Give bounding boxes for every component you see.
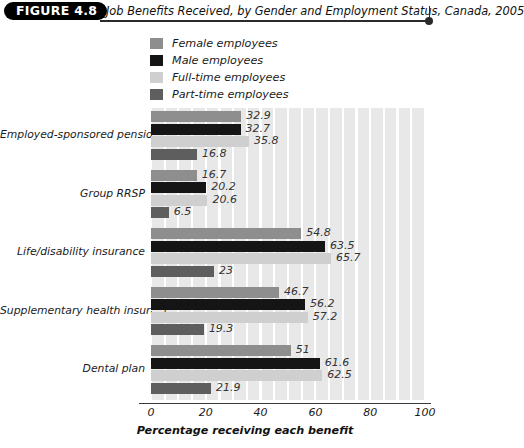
- category-label: Group RRSP: [0, 187, 145, 200]
- bar[interactable]: [151, 345, 291, 356]
- header-rule: [100, 20, 430, 22]
- bar-row: 62.5: [151, 370, 425, 381]
- bar-row: 56.2: [151, 299, 425, 310]
- legend-item[interactable]: Male employees: [150, 53, 289, 68]
- bar-value-label: 62.5: [322, 368, 352, 382]
- bar[interactable]: [151, 312, 308, 323]
- bar-value-label: 57.2: [308, 310, 338, 324]
- x-tick-label: 40: [254, 406, 268, 419]
- category-label: Dental plan: [0, 362, 145, 375]
- bar-value-label: 19.3: [204, 322, 234, 336]
- legend-item-label: Full-time employees: [172, 71, 285, 84]
- bar-value-label: 51: [291, 343, 310, 357]
- bar[interactable]: [151, 241, 325, 252]
- x-tick-label: 60: [308, 406, 322, 419]
- x-axis-tick-labels: 020406080100: [151, 406, 425, 422]
- bar-row: 32.9: [151, 111, 425, 122]
- bar[interactable]: [151, 299, 305, 310]
- bar-row: 21.9: [151, 383, 425, 394]
- bar-value-label: 65.7: [331, 251, 361, 265]
- bar[interactable]: [151, 228, 301, 239]
- bar[interactable]: [151, 195, 207, 206]
- category-label: Employed-sponsored pension: [0, 128, 145, 141]
- bar[interactable]: [151, 383, 211, 394]
- x-tick-label: 100: [415, 406, 436, 419]
- bar-row: 54.8: [151, 228, 425, 239]
- figure-title: Job Benefits Received, by Gender and Emp…: [106, 2, 524, 20]
- bar[interactable]: [151, 287, 279, 298]
- bar-value-label: 35.8: [249, 134, 279, 148]
- category-label: Life/disability insurance: [0, 245, 145, 258]
- bar-row: 23: [151, 266, 425, 277]
- bar[interactable]: [151, 253, 331, 264]
- legend-item-label: Male employees: [172, 54, 263, 67]
- bar-row: 35.8: [151, 136, 425, 147]
- legend-item-label: Part-time employees: [172, 88, 289, 101]
- bar[interactable]: [151, 207, 169, 218]
- bar-row: 20.6: [151, 195, 425, 206]
- bar-value-label: 20.6: [207, 193, 237, 207]
- bar-row: 61.6: [151, 358, 425, 369]
- bar-row: 20.2: [151, 182, 425, 193]
- bar[interactable]: [151, 170, 197, 181]
- bar[interactable]: [151, 136, 249, 147]
- legend-item-label: Female employees: [172, 37, 278, 50]
- bar-row: 16.8: [151, 149, 425, 160]
- bars-layer: 32.932.735.816.816.720.220.66.554.863.56…: [151, 108, 425, 400]
- chart-legend: Female employeesMale employeesFull-time …: [150, 36, 289, 104]
- bar-value-label: 23: [214, 264, 233, 278]
- x-axis-line: [139, 403, 431, 404]
- legend-item[interactable]: Female employees: [150, 36, 289, 51]
- bar[interactable]: [151, 124, 241, 135]
- legend-item[interactable]: Full-time employees: [150, 70, 289, 85]
- bar-row: 65.7: [151, 253, 425, 264]
- figure-number-badge: FIGURE 4.8: [4, 2, 107, 20]
- x-tick-label: 20: [199, 406, 213, 419]
- y-axis-category-labels: Employed-sponsored pensionGroup RRSPLife…: [0, 108, 145, 400]
- header-end-dot-icon: [425, 17, 433, 25]
- plot-area: 32.932.735.816.816.720.220.66.554.863.56…: [151, 108, 425, 400]
- legend-swatch-icon: [150, 89, 163, 100]
- bar-row: 19.3: [151, 324, 425, 335]
- bar[interactable]: [151, 358, 320, 369]
- figure-header: FIGURE 4.8 Job Benefits Received, by Gen…: [0, 0, 450, 24]
- category-label: Supplementary health insurance: [0, 304, 145, 317]
- legend-swatch-icon: [150, 55, 163, 66]
- bar-row: 32.7: [151, 124, 425, 135]
- bar-row: 51: [151, 345, 425, 356]
- legend-swatch-icon: [150, 38, 163, 49]
- bar[interactable]: [151, 182, 206, 193]
- bar[interactable]: [151, 149, 197, 160]
- x-tick-label: 0: [148, 406, 155, 419]
- legend-item[interactable]: Part-time employees: [150, 87, 289, 102]
- bar-value-label: 16.8: [197, 147, 227, 161]
- x-tick-label: 80: [363, 406, 377, 419]
- bar-row: 46.7: [151, 287, 425, 298]
- bar-row: 6.5: [151, 207, 425, 218]
- bar[interactable]: [151, 324, 204, 335]
- bar-value-label: 21.9: [211, 381, 241, 395]
- bar-row: 16.7: [151, 170, 425, 181]
- x-axis-title: Percentage receiving each benefit: [0, 424, 450, 437]
- bar-row: 63.5: [151, 241, 425, 252]
- legend-swatch-icon: [150, 72, 163, 83]
- bar[interactable]: [151, 111, 241, 122]
- bar[interactable]: [151, 266, 214, 277]
- bar-row: 57.2: [151, 312, 425, 323]
- bar-value-label: 6.5: [169, 205, 192, 219]
- bar[interactable]: [151, 370, 322, 381]
